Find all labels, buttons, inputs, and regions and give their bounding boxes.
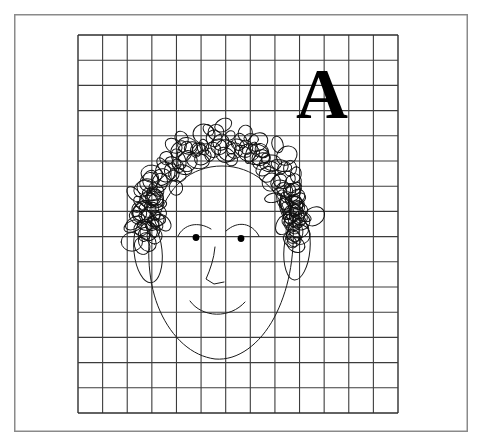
- worksheet-illustration: A: [0, 0, 481, 442]
- page-canvas: A: [0, 0, 481, 442]
- left-eye: [193, 234, 200, 241]
- outer-page-border: [15, 15, 468, 432]
- letter-a-label: A: [296, 54, 348, 134]
- right-eye: [238, 235, 245, 242]
